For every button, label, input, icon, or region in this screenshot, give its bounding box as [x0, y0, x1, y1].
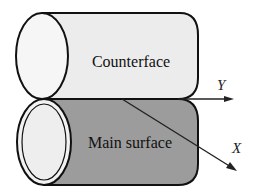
- main-surface-cylinder: Main surface: [17, 99, 198, 185]
- y-axis-arrowhead-icon: [224, 96, 234, 102]
- counterface-end-cap: [16, 13, 68, 99]
- counterface-label: Counterface: [92, 53, 170, 70]
- x-axis-arrowhead-icon: [226, 162, 237, 171]
- two-cylinder-contact-diagram: Counterface Main surface Y X: [0, 0, 257, 196]
- x-axis-label: X: [231, 140, 242, 156]
- counterface-cylinder: Counterface: [16, 13, 198, 99]
- y-axis-label: Y: [217, 77, 227, 93]
- main-surface-label: Main surface: [88, 134, 172, 151]
- main-surface-end-cap-inner: [22, 104, 66, 180]
